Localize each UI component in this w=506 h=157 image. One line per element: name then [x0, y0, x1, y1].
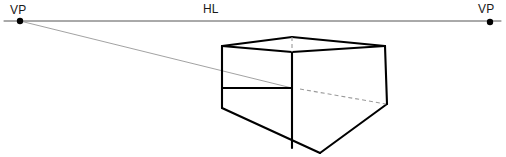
box-edge-top-near-left: [222, 46, 292, 52]
box-edge-top-left: [222, 37, 292, 46]
perspective-diagram-svg: [0, 0, 506, 157]
vanishing-point-right-label: VP: [478, 3, 494, 15]
box-hidden-edge-floor-right: [300, 89, 386, 104]
box-edge-right-vertical: [385, 46, 387, 104]
box-edge-floor-near-left: [222, 108, 320, 153]
box-edge-top-right: [292, 37, 385, 46]
box-solid-edges: [222, 37, 387, 153]
horizon-line-label: HL: [203, 3, 219, 15]
perspective-diagram-canvas: VP HL VP: [0, 0, 506, 157]
vanishing-point-left-dot: [17, 18, 23, 24]
box-edge-top-near-right: [292, 46, 385, 52]
vanishing-point-right-dot: [487, 19, 493, 25]
convergence-line-left-vanishing-point: [20, 21, 292, 88]
box-edge-floor-near-right: [320, 104, 387, 153]
vanishing-point-left-label: VP: [10, 4, 26, 16]
